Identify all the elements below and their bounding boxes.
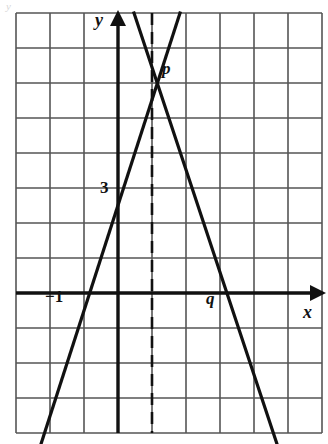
graph-figure: y [0, 0, 328, 444]
plotted-lines [41, 13, 277, 444]
increasing-line [41, 13, 180, 444]
y-intercept-label: 3 [100, 179, 109, 196]
point-q-label: q [206, 290, 215, 307]
x-axis-arrowhead [310, 285, 326, 301]
y-axis-label: y [95, 11, 103, 29]
point-p-label: p [162, 60, 171, 77]
x-axis-label: x [303, 303, 312, 321]
decreasing-line [134, 13, 277, 444]
axes [16, 10, 326, 433]
x-intercept-label: −1 [45, 288, 63, 305]
